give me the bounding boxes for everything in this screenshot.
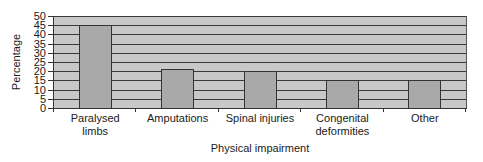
x-axis-line	[53, 108, 467, 109]
x-category-label: Amputations	[133, 112, 223, 125]
y-axis-line	[53, 16, 54, 109]
x-category-label: Other	[380, 112, 470, 125]
x-category-label: Spinal injuries	[215, 112, 305, 125]
gridline	[54, 25, 466, 26]
x-category-label: Congenitaldeformities	[297, 112, 387, 138]
plot-area	[54, 16, 467, 108]
y-axis-title: Percentage	[10, 32, 22, 92]
bar-chart: Percentage 05101520253035404550 Paralyse…	[0, 0, 483, 162]
bar	[161, 69, 194, 108]
bar	[79, 25, 112, 108]
bar	[408, 80, 441, 108]
y-tick-label: 50	[26, 11, 46, 22]
gridline	[54, 16, 466, 17]
x-axis-title: Physical impairment	[0, 142, 483, 154]
bar	[244, 71, 277, 108]
gridline	[54, 44, 466, 45]
gridline	[54, 34, 466, 35]
gridline	[54, 53, 466, 54]
x-category-label: Paralysedlimbs	[50, 112, 140, 138]
bar	[326, 80, 359, 108]
gridline	[54, 62, 466, 63]
